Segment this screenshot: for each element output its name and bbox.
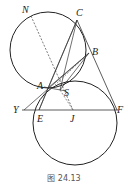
label-C: C — [76, 7, 83, 18]
label-A: A — [36, 80, 44, 91]
label-N: N — [21, 4, 30, 15]
label-E: E — [36, 113, 43, 124]
geometry-figure: N C B A S Y E J F 图 24.13 — [0, 0, 128, 184]
label-J: J — [70, 113, 75, 124]
figure-caption: 图 24.13 — [47, 174, 80, 183]
label-S: S — [64, 87, 69, 98]
upper-circle — [10, 12, 86, 88]
label-F: F — [116, 104, 124, 115]
label-Y: Y — [13, 104, 20, 115]
label-B: B — [92, 46, 98, 57]
